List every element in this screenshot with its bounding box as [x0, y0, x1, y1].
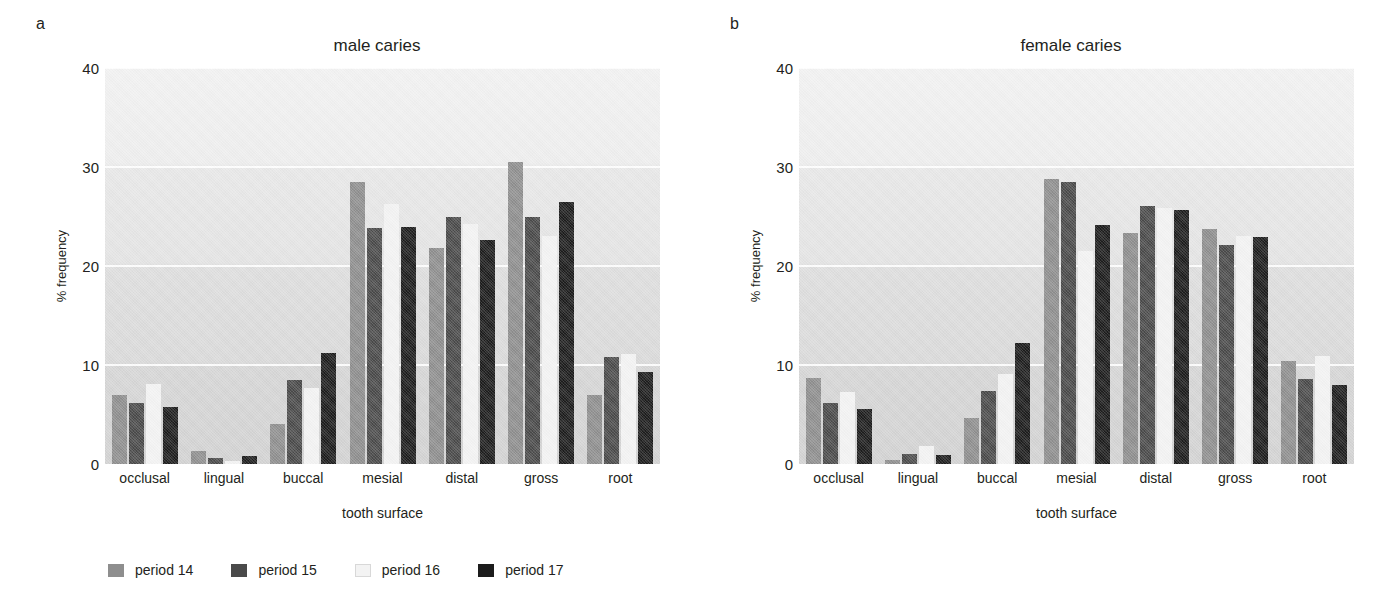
bar: [1157, 208, 1172, 464]
bar: [919, 446, 934, 464]
bar: [587, 395, 602, 464]
bar: [1219, 245, 1234, 464]
panel-title-b: female caries: [694, 36, 1388, 56]
bar: [1298, 379, 1313, 464]
bar: [1236, 236, 1251, 464]
bar: [350, 182, 365, 464]
x-tick-label: distal: [445, 470, 478, 486]
y-tick-label: 20: [747, 258, 793, 275]
bar-group: [508, 68, 574, 464]
y-tick-label: 10: [53, 357, 99, 374]
bar: [1281, 361, 1296, 464]
bar-group: [806, 68, 872, 464]
panel-b: b female caries % frequency 010203040 oc…: [694, 0, 1388, 540]
plot-background-a: [105, 68, 660, 464]
bar: [936, 455, 951, 464]
bar: [446, 217, 461, 465]
bar: [367, 228, 382, 464]
x-axis-label-a: tooth surface: [105, 505, 660, 521]
x-tick-label: occlusal: [813, 470, 864, 486]
bar: [225, 461, 240, 464]
legend-item[interactable]: period 17: [478, 562, 563, 578]
x-tick-label: buccal: [977, 470, 1017, 486]
panel-title-a: male caries: [0, 36, 694, 56]
bar: [287, 380, 302, 464]
y-tick-label: 10: [747, 357, 793, 374]
bar: [429, 248, 444, 464]
bar: [1140, 206, 1155, 464]
bar: [559, 202, 574, 464]
legend-swatch-icon: [108, 564, 124, 577]
plot-area-a: [105, 68, 660, 464]
bar-group: [429, 68, 495, 464]
legend-item[interactable]: period 14: [108, 562, 193, 578]
x-tick-label: distal: [1139, 470, 1172, 486]
legend: period 14period 15period 16period 17: [108, 562, 564, 578]
bar: [621, 354, 636, 464]
bar: [401, 227, 416, 464]
bar-group: [964, 68, 1030, 464]
x-tick-label: lingual: [204, 470, 244, 486]
bar: [208, 458, 223, 464]
bar-group: [1281, 68, 1347, 464]
x-tick-label: root: [608, 470, 632, 486]
x-tick-label: gross: [524, 470, 558, 486]
x-tick-label: mesial: [1056, 470, 1096, 486]
x-tick-label: mesial: [362, 470, 402, 486]
bar: [1061, 182, 1076, 464]
bar: [463, 224, 478, 464]
bar: [981, 391, 996, 464]
x-tick-host-b: occlusallingualbuccalmesialdistalgrossro…: [799, 470, 1354, 494]
plot-background-b: [799, 68, 1354, 464]
bar: [1174, 210, 1189, 464]
caries-frequency-figure: a male caries % frequency 010203040 occl…: [0, 0, 1388, 605]
legend-label: period 16: [382, 562, 440, 578]
bar: [840, 392, 855, 464]
y-axis-a: % frequency 010203040: [43, 68, 99, 464]
plot-area-b: [799, 68, 1354, 464]
bar: [542, 236, 557, 464]
legend-label: period 15: [258, 562, 316, 578]
legend-label: period 14: [135, 562, 193, 578]
bar: [384, 204, 399, 464]
bar-group: [1202, 68, 1268, 464]
x-tick-label: lingual: [898, 470, 938, 486]
bar: [1078, 251, 1093, 464]
y-tick-label: 40: [747, 60, 793, 77]
panel-a: a male caries % frequency 010203040 occl…: [0, 0, 694, 540]
bar: [1095, 225, 1110, 464]
bar-group: [112, 68, 178, 464]
bar-group: [191, 68, 257, 464]
bar: [129, 403, 144, 464]
bar-group: [885, 68, 951, 464]
bar: [998, 374, 1013, 464]
x-axis-label-b: tooth surface: [799, 505, 1354, 521]
bar: [1202, 229, 1217, 464]
bar: [823, 403, 838, 464]
y-tick-label: 0: [747, 456, 793, 473]
bar: [1332, 385, 1347, 464]
bar-group: [1044, 68, 1110, 464]
bar: [480, 240, 495, 464]
legend-label: period 17: [505, 562, 563, 578]
x-tick-label: root: [1302, 470, 1326, 486]
legend-item[interactable]: period 15: [231, 562, 316, 578]
bar: [1015, 343, 1030, 464]
panel-letter-a: a: [36, 16, 45, 32]
bar: [857, 409, 872, 464]
legend-item[interactable]: period 16: [355, 562, 440, 578]
y-tick-label: 20: [53, 258, 99, 275]
legend-swatch-icon: [478, 564, 494, 577]
bar-group: [270, 68, 336, 464]
x-tick-label: occlusal: [119, 470, 170, 486]
panel-letter-b: b: [730, 16, 739, 32]
x-tick-host-a: occlusallingualbuccalmesialdistalgrossro…: [105, 470, 660, 494]
legend-swatch-icon: [355, 564, 371, 577]
bar: [885, 460, 900, 464]
y-tick-label: 40: [53, 60, 99, 77]
bar-group: [350, 68, 416, 464]
bar: [964, 418, 979, 464]
bar: [321, 353, 336, 464]
y-axis-b: % frequency 010203040: [737, 68, 793, 464]
y-tick-label: 30: [53, 159, 99, 176]
